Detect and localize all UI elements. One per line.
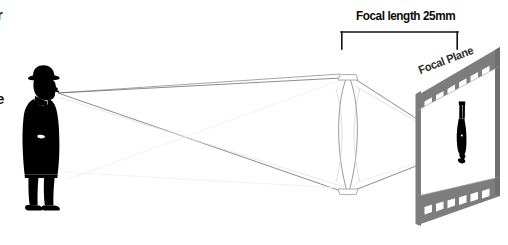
focal-length-label: Focal length 25mm	[356, 9, 455, 23]
convex-lens	[336, 74, 360, 195]
diagram-canvas: r e	[0, 0, 508, 245]
diagram-artwork	[0, 0, 508, 245]
focal-length-bracket	[341, 32, 458, 49]
man-silhouette	[22, 65, 59, 210]
light-rays	[58, 74, 462, 191]
